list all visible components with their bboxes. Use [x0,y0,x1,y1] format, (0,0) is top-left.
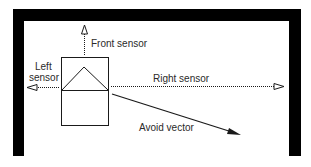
right-sensor-arrow [111,84,284,90]
left-wall [13,9,24,156]
avoid-arrowhead-icon [227,128,241,135]
right-wall [289,9,301,156]
front-sensor-label: Front sensor [91,38,147,49]
left-sensor-label-line1: Left [35,61,52,72]
right-arrowhead-icon [274,84,284,90]
top-wall [13,9,301,21]
left-sensor-arrow [27,85,59,91]
left-arrowhead-icon [27,85,37,91]
left-sensor-label-line2: sensor [29,72,59,83]
avoid-vector-label: Avoid vector [139,122,194,133]
front-arrowhead-icon [82,25,88,34]
robot [62,58,109,126]
right-sensor-label: Right sensor [153,73,209,84]
front-sensor-arrow [82,25,88,55]
